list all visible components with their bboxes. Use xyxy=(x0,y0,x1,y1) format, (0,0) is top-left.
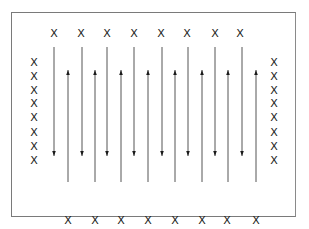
arrowhead-icon xyxy=(146,70,150,75)
up-arrow xyxy=(119,70,123,182)
arrowhead-icon xyxy=(213,151,217,156)
top-x-marker: X xyxy=(211,27,219,40)
down-arrow xyxy=(160,47,164,156)
top-x-marker: X xyxy=(103,27,111,40)
up-arrow xyxy=(146,70,150,182)
down-arrow xyxy=(240,47,244,156)
bottom-x-marker: X xyxy=(117,214,125,227)
arrowhead-icon xyxy=(173,70,177,75)
arrowhead-icon xyxy=(160,151,164,156)
top-x-marker: X xyxy=(50,27,58,40)
up-arrow xyxy=(200,70,204,182)
arrowhead-icon xyxy=(80,151,84,156)
bottom-x-marker: X xyxy=(91,214,99,227)
down-arrow xyxy=(80,47,84,156)
arrowhead-icon xyxy=(93,70,97,75)
top-x-marker: X xyxy=(77,27,85,40)
arrowhead-icon xyxy=(226,70,230,75)
up-arrow xyxy=(93,70,97,182)
down-arrow xyxy=(132,47,136,156)
arrowhead-icon xyxy=(254,70,258,75)
bottom-x-marker: X xyxy=(171,214,179,227)
down-arrow xyxy=(52,47,56,156)
left-x-marker: X xyxy=(30,56,38,69)
arrowhead-icon xyxy=(132,151,136,156)
left-x-marker: X xyxy=(30,70,38,83)
top-x-marker: X xyxy=(130,27,138,40)
top-x-marker: X xyxy=(157,27,165,40)
arrowhead-icon xyxy=(119,70,123,75)
left-x-marker: X xyxy=(30,140,38,153)
flow-diagram: XXXXXXXXXXXXXXXXXXXXXXXXXXXXXXXX xyxy=(0,0,309,229)
top-x-marker: X xyxy=(183,27,191,40)
bottom-x-marker: X xyxy=(252,214,260,227)
arrowhead-icon xyxy=(200,70,204,75)
top-x-marker: X xyxy=(236,27,244,40)
arrowhead-icon xyxy=(52,151,56,156)
right-x-marker: X xyxy=(270,126,278,139)
down-arrow xyxy=(105,47,109,156)
up-arrow xyxy=(254,70,258,182)
left-x-marker: X xyxy=(30,154,38,167)
arrowhead-icon xyxy=(105,151,109,156)
down-arrow xyxy=(213,47,217,156)
up-arrow xyxy=(66,70,70,182)
right-x-marker: X xyxy=(270,140,278,153)
arrowhead-icon xyxy=(66,70,70,75)
bottom-x-marker: X xyxy=(223,214,231,227)
left-x-marker: X xyxy=(30,126,38,139)
bottom-x-marker: X xyxy=(198,214,206,227)
bottom-x-marker: X xyxy=(144,214,152,227)
up-arrow xyxy=(173,70,177,182)
arrow-lines xyxy=(52,47,258,182)
right-x-marker: X xyxy=(270,56,278,69)
bottom-x-marker: X xyxy=(64,214,72,227)
x-markers: XXXXXXXXXXXXXXXXXXXXXXXXXXXXXXXX xyxy=(30,27,278,227)
right-x-marker: X xyxy=(270,97,278,110)
arrowhead-icon xyxy=(240,151,244,156)
right-x-marker: X xyxy=(270,111,278,124)
left-x-marker: X xyxy=(30,84,38,97)
right-x-marker: X xyxy=(270,84,278,97)
right-x-marker: X xyxy=(270,70,278,83)
down-arrow xyxy=(186,47,190,156)
arrowhead-icon xyxy=(186,151,190,156)
up-arrow xyxy=(226,70,230,182)
left-x-marker: X xyxy=(30,111,38,124)
left-x-marker: X xyxy=(30,97,38,110)
right-x-marker: X xyxy=(270,154,278,167)
